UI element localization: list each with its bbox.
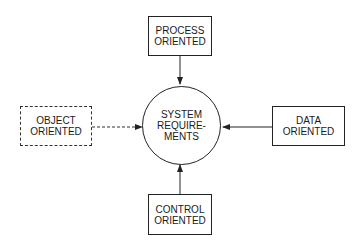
center-line-2: REQUIRE- bbox=[157, 120, 206, 131]
data-line-1: DATA bbox=[296, 115, 321, 126]
object-line-1: OBJECT bbox=[36, 115, 75, 126]
control-line-2: ORIENTED bbox=[154, 215, 206, 226]
process-line-1: PROCESS bbox=[156, 25, 205, 36]
center-line-1: SYSTEM bbox=[161, 109, 202, 120]
center-line-3: MENTS bbox=[164, 131, 199, 142]
data-oriented-box: DATA ORIENTED bbox=[272, 106, 345, 146]
process-line-2: ORIENTED bbox=[154, 36, 206, 47]
control-line-1: CONTROL bbox=[156, 204, 205, 215]
system-requirements-circle: SYSTEM REQUIRE- MENTS bbox=[142, 86, 221, 165]
process-oriented-box: PROCESS ORIENTED bbox=[148, 16, 212, 56]
control-oriented-box: CONTROL ORIENTED bbox=[148, 194, 212, 235]
data-line-2: ORIENTED bbox=[283, 126, 335, 137]
object-oriented-box: OBJECT ORIENTED bbox=[20, 106, 92, 146]
object-line-2: ORIENTED bbox=[30, 126, 82, 137]
